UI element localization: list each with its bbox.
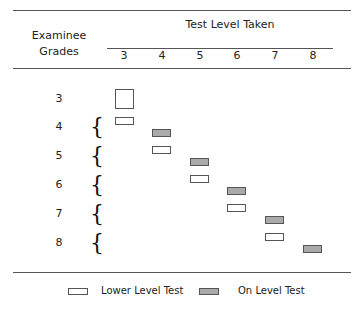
brace-icon: { (90, 203, 104, 225)
top-rule (13, 10, 351, 11)
column-group-title: Test Level Taken (170, 18, 290, 31)
grade-8-on-level-box (303, 245, 322, 253)
grade-5-lower-level-box (152, 146, 171, 154)
legend-on-label: On Level Test (238, 285, 305, 296)
column-group-rule (107, 48, 333, 49)
column-header-8: 8 (303, 49, 323, 62)
grade-5-on-level-box (190, 158, 209, 166)
row-header-line2: Grades (28, 45, 90, 58)
grade-6-on-level-box (227, 187, 246, 195)
legend-lower-swatch (68, 288, 88, 295)
brace-icon: { (90, 232, 104, 254)
row-label-grade-4: 4 (53, 120, 65, 133)
brace-icon: { (90, 116, 104, 138)
brace-icon: { (90, 145, 104, 167)
grade-7-lower-level-box (227, 204, 246, 212)
column-header-6: 6 (227, 49, 247, 62)
legend-on-swatch (199, 288, 219, 295)
legend-lower-label: Lower Level Test (101, 285, 183, 296)
row-label-grade-5: 5 (53, 149, 65, 162)
grade-3-test-box (115, 89, 134, 109)
grade-4-lower-level-box (115, 117, 134, 125)
bottom-rule (13, 272, 351, 273)
grade-6-lower-level-box (190, 175, 209, 183)
grade-4-on-level-box (152, 129, 171, 137)
column-header-5: 5 (190, 49, 210, 62)
grade-8-lower-level-box (265, 233, 284, 241)
column-header-4: 4 (152, 49, 172, 62)
row-label-grade-8: 8 (53, 236, 65, 249)
grade-7-on-level-box (265, 216, 284, 224)
header-bottom-rule (13, 68, 351, 69)
row-label-grade-3: 3 (53, 92, 65, 105)
row-label-grade-6: 6 (53, 178, 65, 191)
brace-icon: { (90, 174, 104, 196)
row-header-line1: Examinee (28, 29, 90, 42)
column-header-3: 3 (114, 49, 134, 62)
row-label-grade-7: 7 (53, 207, 65, 220)
column-header-7: 7 (265, 49, 285, 62)
